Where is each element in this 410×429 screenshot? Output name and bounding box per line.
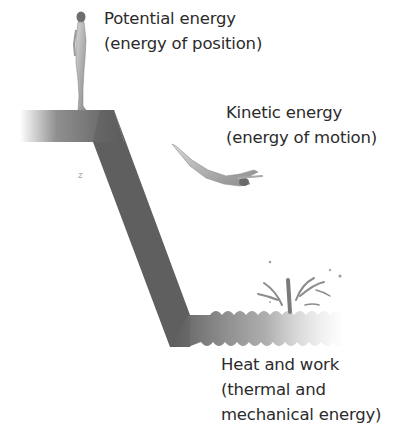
energy-diagram: z Potential energy (energy of position) …	[0, 0, 410, 429]
heat-work-subtitle-1: (thermal and	[221, 377, 381, 402]
kinetic-energy-title: Kinetic energy	[226, 100, 377, 125]
water-splash-icon	[258, 261, 342, 312]
heat-work-subtitle-2: mechanical energy)	[221, 402, 381, 427]
potential-energy-title: Potential energy	[104, 6, 262, 31]
potential-energy-subtitle: (energy of position)	[104, 31, 262, 56]
standing-diver-icon	[74, 12, 86, 111]
stray-mark: z	[78, 170, 83, 180]
kinetic-energy-subtitle: (energy of motion)	[226, 125, 377, 150]
potential-energy-label: Potential energy (energy of position)	[104, 6, 262, 56]
heat-work-label: Heat and work (thermal and mechanical en…	[221, 352, 381, 427]
water-surface	[170, 311, 345, 347]
heat-work-title: Heat and work	[221, 352, 381, 377]
kinetic-energy-label: Kinetic energy (energy of motion)	[226, 100, 377, 150]
diving-figure-icon	[172, 144, 262, 186]
